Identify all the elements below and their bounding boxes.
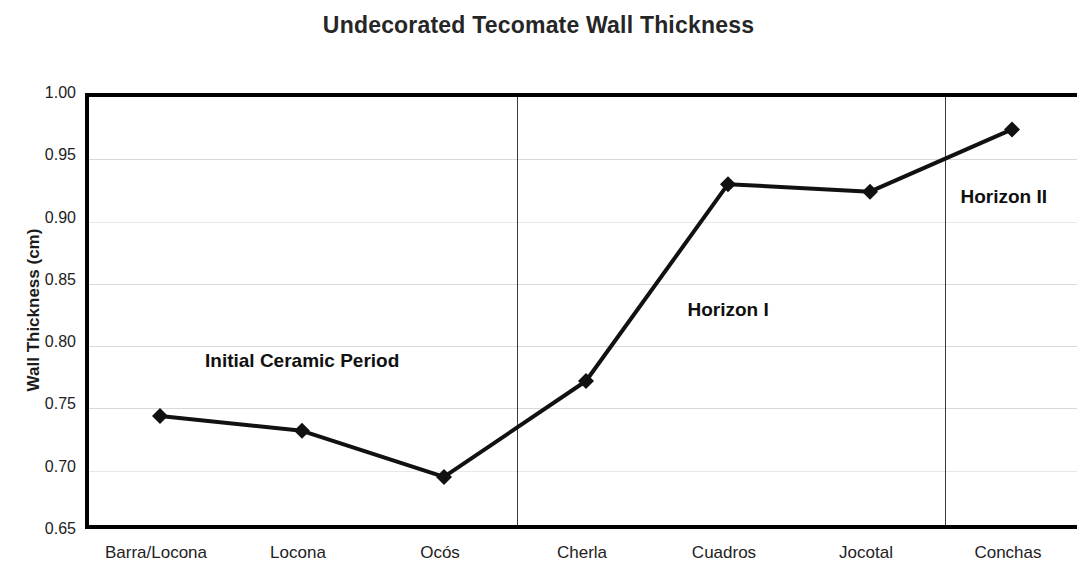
y-axis-tick-label: 0.95 [20, 147, 76, 163]
chart-container: Undecorated Tecomate Wall Thickness Wall… [0, 0, 1077, 567]
data-point-marker [862, 184, 878, 200]
y-axis-tick-label: 0.90 [20, 210, 76, 226]
chart-annotation-label: Horizon I [688, 299, 769, 321]
chart-annotation-label: Horizon II [961, 186, 1048, 208]
plot-area: Initial Ceramic PeriodHorizon IHorizon I… [85, 93, 1077, 529]
x-axis-tick-label: Conchas [908, 544, 1077, 561]
y-axis-tick-label: 1.00 [20, 85, 76, 101]
series-line [160, 129, 1012, 477]
chart-title: Undecorated Tecomate Wall Thickness [0, 12, 1077, 39]
y-axis-tick-label: 0.70 [20, 459, 76, 475]
data-point-marker [294, 423, 310, 439]
data-point-marker [152, 408, 168, 424]
chart-annotation-label: Initial Ceramic Period [205, 350, 399, 372]
y-axis-tick-label: 0.80 [20, 334, 76, 350]
data-point-marker [1004, 121, 1020, 137]
y-axis-tick-label: 0.65 [20, 521, 76, 537]
y-axis-tick-label: 0.75 [20, 396, 76, 412]
y-axis-tick-label: 0.85 [20, 272, 76, 288]
line-series-layer [89, 97, 1077, 533]
